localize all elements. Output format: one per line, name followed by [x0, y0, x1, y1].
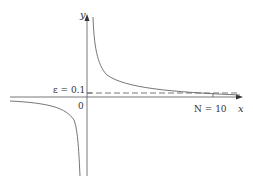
curve-right-branch [93, 17, 240, 95]
curve-left-branch [10, 101, 80, 176]
limit-graph: y x 0 ε = 0.1 N = 10 [0, 0, 253, 191]
origin-label: 0 [78, 101, 84, 111]
y-axis-label: y [79, 9, 86, 20]
x-axis-label: x [238, 103, 244, 114]
epsilon-label: ε = 0.1 [53, 85, 85, 95]
n-label: N = 10 [194, 104, 227, 114]
